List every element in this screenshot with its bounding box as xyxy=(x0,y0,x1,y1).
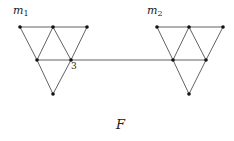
edge-m1 xyxy=(71,27,87,60)
vertex-label-3: 3 xyxy=(71,61,77,71)
vertex-m2 xyxy=(171,58,175,62)
edge-m1 xyxy=(53,27,71,60)
vertex-m2 xyxy=(221,25,225,29)
vertex-m2 xyxy=(204,58,208,62)
graph-figure: m1 m2 3 F xyxy=(0,0,234,141)
vertex-m1 xyxy=(35,58,39,62)
graph-label-m2: m2 xyxy=(147,4,163,18)
edge-m2 xyxy=(189,60,206,94)
edges-layer xyxy=(20,27,223,94)
edge-m1 xyxy=(20,27,37,60)
graph-canvas: m1 m2 3 F xyxy=(0,0,234,141)
vertex-m2 xyxy=(187,92,191,96)
edge-m2 xyxy=(189,27,206,60)
edge-m2 xyxy=(206,27,223,60)
vertex-m1 xyxy=(51,92,55,96)
edge-m2 xyxy=(157,27,173,60)
edge-m1 xyxy=(37,60,53,94)
graph-label-m1: m1 xyxy=(13,4,29,18)
edge-m1 xyxy=(53,60,71,94)
edge-m2 xyxy=(173,27,189,60)
edge-m1 xyxy=(37,27,53,60)
figure-caption: F xyxy=(115,117,126,132)
vertex-m1 xyxy=(18,25,22,29)
vertex-m2 xyxy=(187,25,191,29)
vertex-m1 xyxy=(85,25,89,29)
vertex-m1 xyxy=(51,25,55,29)
labels-layer: m1 m2 3 F xyxy=(13,4,163,132)
vertex-m2 xyxy=(155,25,159,29)
edge-m2 xyxy=(173,60,189,94)
